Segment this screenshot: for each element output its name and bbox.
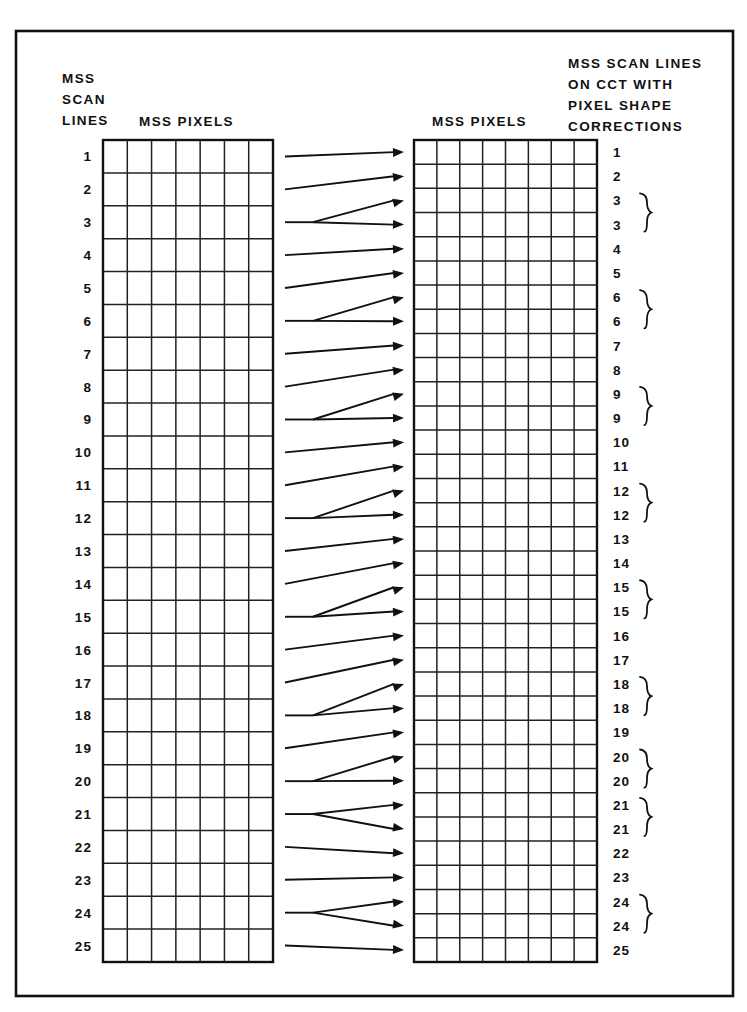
left-scan-line-label-7: 7 [83,347,92,362]
right-header-block: MSS SCAN LINESON CCT WITHPIXEL SHAPECORR… [568,56,702,134]
duplicate-row-brace [640,387,651,425]
left-scan-line-label-24: 24 [75,906,92,921]
right-header-line-4: CORRECTIONS [568,119,683,134]
right-scan-line-label-31: 23 [613,870,630,885]
mapping-arrow-branch [313,200,394,222]
mapping-arrow-head [393,776,404,785]
left-header-line-2: SCAN [62,92,106,107]
mapping-arrow-head [393,633,404,642]
left-scan-line-label-11: 11 [76,478,92,493]
mapping-arrow-head [393,899,404,908]
mapping-arrow-head [393,439,404,448]
mapping-arrow-head [392,367,404,376]
mapping-arrow [285,466,394,485]
mapping-arrow-branch [313,902,394,913]
left-scan-line-label-23: 23 [75,873,92,888]
left-scan-line-label-15: 15 [75,610,92,625]
right-scan-line-label-13: 10 [613,435,630,450]
mapping-arrow-head [393,848,404,857]
right-scan-line-label-34: 25 [613,943,630,958]
right-scan-line-label-20: 15 [613,604,630,619]
left-mss-pixels-label: MSS PIXELS [139,114,234,129]
left-scan-line-label-4: 4 [83,248,92,263]
mapping-arrow [285,273,394,288]
left-scan-line-label-12: 12 [75,511,92,526]
left-scan-line-label-20: 20 [75,774,92,789]
mapping-arrow-head [392,296,404,305]
mapping-arrow-head [393,729,404,738]
mapping-arrow-head [393,511,404,520]
right-scan-line-label-17: 13 [613,532,630,547]
right-scan-line-label-25: 19 [613,725,630,740]
mapping-arrow-head [393,245,404,254]
left-grid-outline [103,140,273,962]
mapping-arrow-head [393,705,404,714]
mapping-arrow [285,442,394,452]
left-scan-line-label-6: 6 [83,314,92,329]
right-scan-line-label-6: 5 [613,266,622,281]
left-scan-line-label-21: 21 [75,807,92,822]
mapping-arrow-branch [313,491,394,519]
mapping-arrow-head [393,317,404,326]
mapping-arrow-head [392,586,404,594]
mapping-arrow-head [393,414,404,423]
left-scan-line-label-13: 13 [75,544,92,559]
left-scan-line-label-10: 10 [75,445,92,460]
mapping-arrow [285,563,394,584]
left-scan-line-label-1: 1 [83,149,92,164]
duplicate-row-brace [640,193,651,231]
mapping-arrow-branch [313,515,394,518]
left-scan-line-label-16: 16 [75,643,92,658]
mapping-arrow-head [393,802,404,811]
mapping-arrow-head [393,342,404,351]
duplicate-line-braces [640,193,651,932]
mapping-arrow-head [393,945,404,954]
mapping-arrow-head [393,173,404,182]
right-scan-line-label-2: 2 [613,169,622,184]
right-scan-line-label-30: 22 [613,846,630,861]
mapping-arrow-branch [313,708,394,715]
right-scan-line-label-22: 17 [613,653,630,668]
mapping-arrow-head [392,823,404,832]
mapping-arrow-branch [313,814,394,829]
mapping-arrow-branch [313,222,394,224]
right-scan-line-label-4: 3 [613,218,622,233]
left-mss-pixel-grid [103,140,273,962]
left-scan-line-label-5: 5 [83,281,92,296]
mapping-arrow-head [392,464,404,473]
right-scan-line-label-19: 15 [613,580,630,595]
mapping-arrow-branch [313,418,394,419]
duplicate-row-brace [640,484,651,522]
right-mss-pixels-label: MSS PIXELS [432,114,527,129]
left-scan-line-label-9: 9 [83,412,92,427]
mapping-arrow [285,732,394,748]
mapping-arrow [285,877,394,879]
mapping-arrow-head [392,490,404,498]
right-scan-line-label-10: 8 [613,363,622,378]
mss-scan-line-correction-diagram: MSSSCANLINES MSS PIXELS MSS PIXELS MSS S… [0,0,747,1012]
left-scan-line-label-3: 3 [83,215,92,230]
mapping-arrow-branch [313,684,394,715]
scan-line-mapping-arrows [285,148,404,954]
right-scan-line-label-5: 4 [613,242,622,257]
right-scan-line-label-12: 9 [613,411,622,426]
left-scan-line-label-25: 25 [75,939,92,954]
mapping-arrow [285,847,394,853]
mapping-arrow-head [393,270,404,279]
mapping-arrow-head [393,608,404,617]
right-scan-line-label-28: 21 [613,798,630,813]
duplicate-row-brace [640,798,651,836]
left-header-block: MSSSCANLINES [62,71,109,128]
right-scan-line-label-3: 3 [613,193,622,208]
left-scan-line-labels: 1234567891011121314151617181920212223242… [75,149,92,953]
mapping-arrow-head [392,683,404,691]
right-scan-line-label-24: 18 [613,701,630,716]
right-header-line-1: MSS SCAN LINES [568,56,702,71]
right-scan-line-label-11: 9 [613,387,622,402]
right-scan-line-label-29: 21 [613,822,630,837]
mapping-arrow [285,346,394,354]
mapping-arrow-branch [313,757,394,782]
mapping-arrow-branch [313,394,394,420]
right-scan-line-label-1: 1 [613,145,622,160]
right-scan-line-label-27: 20 [613,774,630,789]
